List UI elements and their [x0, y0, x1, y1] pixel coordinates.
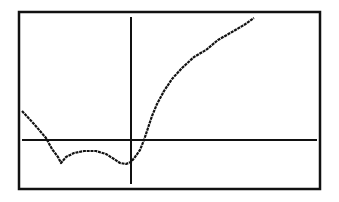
calculator-graph-screen: Graphing-calculator style plot: curve de…: [0, 0, 339, 202]
plot-frame: [19, 12, 320, 189]
function-curve: [22, 18, 254, 164]
function-plot: [0, 0, 339, 202]
